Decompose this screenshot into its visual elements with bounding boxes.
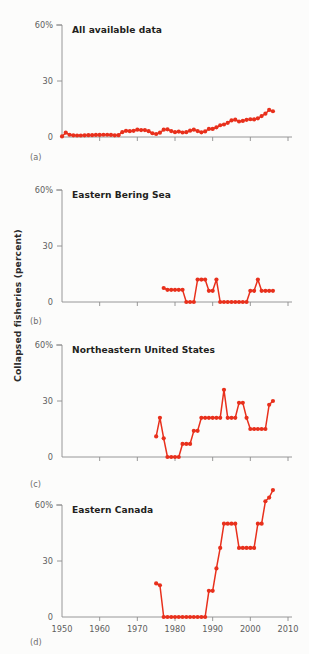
y-tick-label: 0	[48, 132, 53, 142]
data-point	[162, 615, 166, 619]
data-point	[271, 289, 275, 293]
data-point	[188, 129, 192, 133]
data-point	[218, 123, 222, 127]
data-point	[211, 127, 215, 131]
data-point	[214, 278, 218, 282]
panel-title: Eastern Bering Sea	[72, 190, 171, 200]
panel-title: All available data	[72, 25, 162, 35]
data-point	[256, 427, 260, 431]
data-point	[188, 442, 192, 446]
x-tick-label: 1950	[52, 624, 73, 634]
panel-a: 03060%All available data(a)	[30, 20, 292, 162]
data-point	[256, 116, 260, 120]
data-point	[177, 288, 181, 292]
data-point	[173, 288, 177, 292]
data-point	[241, 546, 245, 550]
data-point	[229, 416, 233, 420]
y-tick-label: 30	[43, 241, 53, 251]
data-point	[244, 118, 248, 122]
data-point	[98, 133, 102, 137]
data-point	[218, 300, 222, 304]
data-point	[244, 546, 248, 550]
data-point	[237, 119, 241, 123]
data-point	[244, 300, 248, 304]
data-point	[90, 133, 94, 137]
data-point	[135, 128, 139, 132]
data-point	[211, 416, 215, 420]
data-point	[192, 128, 196, 132]
data-point	[233, 416, 237, 420]
data-point	[173, 455, 177, 459]
data-point	[180, 442, 184, 446]
series-line	[156, 390, 273, 457]
data-point	[203, 416, 207, 420]
data-point	[116, 133, 120, 137]
data-point	[71, 133, 75, 137]
data-point	[169, 129, 173, 133]
data-point	[233, 118, 237, 122]
data-point	[169, 288, 173, 292]
data-point	[252, 289, 256, 293]
y-tick-label: 30	[43, 76, 53, 86]
data-point	[113, 133, 117, 137]
data-point	[184, 300, 188, 304]
data-point	[177, 615, 181, 619]
data-point	[248, 546, 252, 550]
x-tick-label: 1980	[165, 624, 186, 634]
data-point	[75, 133, 79, 137]
data-point	[237, 300, 241, 304]
data-point	[165, 127, 169, 131]
data-point	[120, 130, 124, 134]
panel-letter: (c)	[30, 479, 41, 489]
data-point	[83, 133, 87, 137]
data-point	[105, 133, 109, 137]
data-point	[203, 278, 207, 282]
data-point	[154, 581, 158, 585]
data-point	[256, 278, 260, 282]
multi-panel-chart: 03060%All available data(a)03060%Eastern…	[0, 0, 309, 654]
data-point	[248, 289, 252, 293]
data-point	[233, 300, 237, 304]
data-point	[184, 615, 188, 619]
data-point	[124, 129, 128, 133]
data-point	[207, 589, 211, 593]
y-tick-label: 60%	[35, 500, 53, 510]
data-point	[158, 416, 162, 420]
data-point	[267, 289, 271, 293]
data-point	[241, 119, 245, 123]
data-point	[244, 416, 248, 420]
data-point	[158, 583, 162, 587]
data-point	[248, 117, 252, 121]
data-point	[169, 615, 173, 619]
data-point	[263, 289, 267, 293]
data-point	[237, 401, 241, 405]
data-point	[196, 429, 200, 433]
data-point	[207, 127, 211, 131]
data-point	[188, 300, 192, 304]
data-point	[226, 121, 230, 125]
data-point	[173, 130, 177, 134]
data-point	[263, 112, 267, 116]
data-point	[180, 615, 184, 619]
data-point	[64, 131, 68, 135]
y-tick-label: 60%	[35, 185, 53, 195]
data-point	[67, 133, 71, 137]
x-tick-label: 1960	[89, 624, 110, 634]
data-point	[177, 129, 181, 133]
data-point	[199, 615, 203, 619]
panel-b: 03060%Eastern Bering Sea(b)	[30, 185, 292, 326]
data-point	[233, 522, 237, 526]
data-point	[188, 615, 192, 619]
data-point	[214, 566, 218, 570]
y-tick-label: 0	[48, 612, 53, 622]
panel-letter: (a)	[30, 152, 41, 162]
data-point	[241, 401, 245, 405]
data-point	[222, 300, 226, 304]
data-point	[150, 131, 154, 135]
x-tick-label: 1970	[127, 624, 148, 634]
data-point	[180, 130, 184, 134]
data-point	[131, 129, 135, 133]
data-point	[226, 522, 230, 526]
data-point	[218, 546, 222, 550]
data-point	[267, 108, 271, 112]
